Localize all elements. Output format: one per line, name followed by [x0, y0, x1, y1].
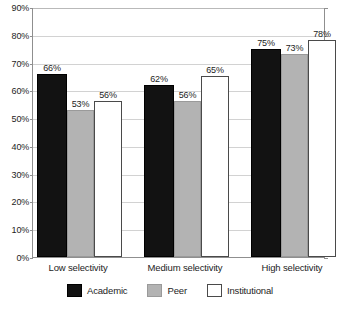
bar-high-selectivity-peer — [281, 54, 308, 257]
bar-high-selectivity-academic — [251, 49, 281, 257]
gridline-80 — [33, 36, 324, 37]
gridline-90 — [33, 8, 324, 9]
ytick-label-90: 90% — [12, 3, 29, 13]
bar-label-high-selectivity-academic: 75% — [257, 38, 274, 48]
bar-low-selectivity-academic — [37, 74, 67, 257]
bar-label-low-selectivity-institutional: 56% — [99, 90, 116, 100]
legend-label-academic: Academic — [87, 285, 128, 296]
ytick-mark-40 — [30, 147, 33, 148]
ytick-mark-right-90 — [324, 8, 328, 9]
ytick-label-20: 20% — [12, 197, 29, 207]
legend-item-peer: Peer — [147, 284, 186, 297]
legend-swatch-peer-icon — [147, 284, 162, 297]
legend-swatch-academic-icon — [67, 284, 82, 297]
bar-label-high-selectivity-peer: 73% — [286, 43, 303, 53]
bar-medium-selectivity-peer — [174, 101, 201, 257]
ytick-mark-70 — [30, 64, 33, 65]
ytick-label-40: 40% — [12, 142, 29, 152]
category-label-low-selectivity: Low selectivity — [49, 262, 108, 273]
ytick-label-70: 70% — [12, 59, 29, 69]
ytick-label-30: 30% — [12, 170, 29, 180]
ytick-mark-60 — [30, 91, 33, 92]
ytick-mark-30 — [30, 175, 33, 176]
grouped-bar-chart: 90% 80% 70% 60% 50% 40% 30% 20% 10% — [0, 0, 340, 314]
bar-low-selectivity-peer — [67, 110, 94, 257]
ytick-label-0: 0% — [16, 253, 29, 263]
bar-label-medium-selectivity-peer: 56% — [179, 90, 196, 100]
ytick-mark-50 — [30, 119, 33, 120]
legend-swatch-institutional-icon — [207, 284, 222, 297]
bar-high-selectivity-institutional — [308, 40, 336, 257]
bar-label-medium-selectivity-institutional: 65% — [206, 65, 223, 75]
ytick-mark-0 — [30, 258, 33, 259]
ytick-label-80: 80% — [12, 31, 29, 41]
bar-label-low-selectivity-academic: 66% — [43, 63, 60, 73]
legend: Academic Peer Institutional — [0, 284, 340, 297]
legend-item-academic: Academic — [67, 284, 128, 297]
category-label-high-selectivity: High selectivity — [262, 262, 323, 273]
bar-medium-selectivity-institutional — [201, 76, 229, 257]
legend-item-institutional: Institutional — [207, 284, 273, 297]
bar-low-selectivity-institutional — [94, 101, 122, 257]
ytick-mark-90 — [30, 8, 33, 9]
category-label-medium-selectivity: Medium selectivity — [148, 262, 223, 273]
ytick-mark-right-0 — [324, 258, 328, 259]
ytick-mark-80 — [30, 36, 33, 37]
plot-area: 90% 80% 70% 60% 50% 40% 30% 20% 10% — [32, 8, 325, 258]
legend-label-peer: Peer — [167, 285, 186, 296]
ytick-label-10: 10% — [12, 225, 29, 235]
ytick-label-50: 50% — [12, 114, 29, 124]
ytick-label-60: 60% — [12, 86, 29, 96]
legend-label-institutional: Institutional — [227, 285, 273, 296]
bar-label-medium-selectivity-academic: 62% — [150, 74, 167, 84]
ytick-mark-20 — [30, 202, 33, 203]
bar-medium-selectivity-academic — [144, 85, 174, 257]
ytick-mark-10 — [30, 230, 33, 231]
bar-label-low-selectivity-peer: 53% — [72, 99, 89, 109]
bar-label-high-selectivity-institutional: 78% — [313, 29, 330, 39]
